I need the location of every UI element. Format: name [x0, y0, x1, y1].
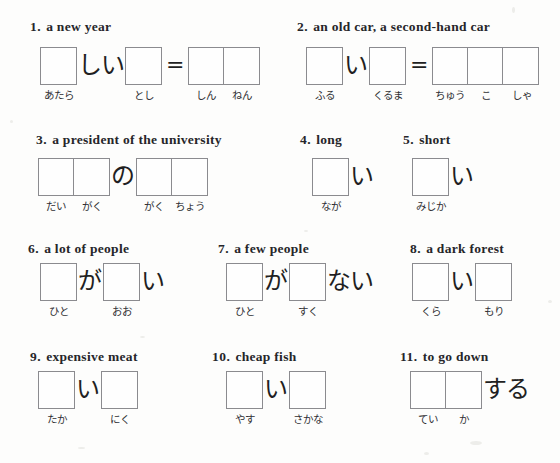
- kanji-answer-box[interactable]: [306, 47, 343, 85]
- kanji-box-group[interactable]: だいがく: [38, 158, 110, 212]
- kanji-cell[interactable]: [503, 48, 538, 84]
- kanji-answer-box[interactable]: [410, 371, 482, 409]
- kana-okurigana: する: [482, 371, 530, 407]
- kanji-answer-box[interactable]: [312, 158, 349, 196]
- kanji-box-group[interactable]: もり: [475, 263, 512, 317]
- kanji-cell[interactable]: [468, 48, 503, 84]
- kanji-cell[interactable]: [413, 264, 448, 300]
- kanji-cell[interactable]: [172, 159, 207, 195]
- item-heading-5: 5short: [403, 132, 451, 148]
- furigana-hint: がく: [136, 200, 172, 212]
- furigana-hint: なが: [312, 200, 349, 212]
- item-heading-8: 8a dark forest: [410, 241, 504, 257]
- kanji-cell[interactable]: [41, 48, 76, 84]
- kanji-box-group[interactable]: ふる: [306, 47, 343, 101]
- kanji-answer-box[interactable]: [136, 158, 208, 196]
- kanji-box-group[interactable]: ちゅうこしゃ: [432, 47, 539, 101]
- kanji-box-group[interactable]: しんねん: [188, 47, 260, 101]
- item-number: 4: [300, 132, 311, 147]
- kanji-answer-box[interactable]: [103, 263, 140, 301]
- kana-okurigana: い: [343, 47, 369, 83]
- kanji-answer-box[interactable]: [475, 263, 512, 301]
- item-heading-10: 10cheap fish: [212, 349, 297, 365]
- item-heading-11: 11to go down: [400, 349, 489, 365]
- kanji-answer-box[interactable]: [412, 158, 449, 196]
- kanji-box-group[interactable]: くら: [412, 263, 449, 317]
- answer-row-5: みじかい: [412, 158, 475, 212]
- kanji-box-group[interactable]: にく: [101, 371, 138, 425]
- kanji-cell[interactable]: [74, 159, 109, 195]
- kana-okurigana: の: [110, 158, 136, 194]
- kanji-answer-box[interactable]: [432, 47, 539, 85]
- kanji-cell[interactable]: [313, 159, 348, 195]
- kanji-box-group[interactable]: やす: [226, 371, 263, 425]
- kanji-answer-box[interactable]: [101, 371, 138, 409]
- item-prompt: long: [316, 132, 342, 147]
- kanji-answer-box[interactable]: [38, 158, 110, 196]
- item-heading-7: 7a few people: [218, 241, 309, 257]
- kanji-cell[interactable]: [104, 264, 139, 300]
- kanji-cell[interactable]: [446, 372, 481, 408]
- kanji-cell[interactable]: [224, 48, 259, 84]
- kanji-box-group[interactable]: くるま: [369, 47, 406, 101]
- kanji-box-group[interactable]: あたら: [40, 47, 77, 101]
- kanji-cell[interactable]: [433, 48, 468, 84]
- furigana-hint-row: ちゅうこしゃ: [432, 89, 539, 101]
- kanji-cell[interactable]: [39, 159, 74, 195]
- kanji-box-group[interactable]: がくちょう: [136, 158, 208, 212]
- kanji-answer-box[interactable]: [188, 47, 260, 85]
- furigana-hint: くるま: [369, 89, 406, 101]
- kanji-cell[interactable]: [307, 48, 342, 84]
- kanji-box-group[interactable]: ひと: [226, 263, 263, 317]
- kanji-answer-box[interactable]: [289, 263, 326, 301]
- furigana-hint: さかな: [289, 413, 326, 425]
- kanji-answer-box[interactable]: [38, 371, 75, 409]
- equals-sign: =: [162, 47, 188, 83]
- furigana-hint: もり: [475, 305, 512, 317]
- kanji-answer-box[interactable]: [412, 263, 449, 301]
- kanji-answer-box[interactable]: [125, 47, 162, 85]
- answer-row-3: だいがくのがくちょう: [38, 158, 208, 212]
- kanji-box-group[interactable]: みじか: [412, 158, 449, 212]
- item-number: 1: [30, 19, 41, 34]
- kanji-cell[interactable]: [126, 48, 161, 84]
- furigana-hint: がく: [74, 200, 110, 212]
- kanji-box-group[interactable]: たか: [38, 371, 75, 425]
- kanji-answer-box[interactable]: [226, 371, 263, 409]
- kanji-box-group[interactable]: ひと: [40, 263, 77, 317]
- kanji-cell[interactable]: [370, 48, 405, 84]
- kanji-box-group[interactable]: おお: [103, 263, 140, 317]
- kanji-cell[interactable]: [476, 264, 511, 300]
- kanji-cell[interactable]: [227, 372, 262, 408]
- kanji-box-group[interactable]: さかな: [289, 371, 326, 425]
- kanji-cell[interactable]: [227, 264, 262, 300]
- kanji-answer-box[interactable]: [226, 263, 263, 301]
- kanji-answer-box[interactable]: [40, 263, 77, 301]
- kanji-answer-box[interactable]: [289, 371, 326, 409]
- furigana-hint: ちゅう: [432, 89, 468, 101]
- furigana-hint-row: にく: [101, 413, 138, 425]
- kanji-cell[interactable]: [290, 372, 325, 408]
- kanji-cell[interactable]: [102, 372, 137, 408]
- item-heading-9: 9expensive meat: [30, 349, 138, 365]
- kanji-cell[interactable]: [137, 159, 172, 195]
- kanji-box-group[interactable]: とし: [125, 47, 162, 101]
- kanji-cell[interactable]: [41, 264, 76, 300]
- furigana-hint: おお: [103, 305, 140, 317]
- furigana-hint-row: さかな: [289, 413, 326, 425]
- kanji-answer-box[interactable]: [369, 47, 406, 85]
- kanji-cell[interactable]: [411, 372, 446, 408]
- kanji-box-group[interactable]: なが: [312, 158, 349, 212]
- furigana-hint-row: おお: [103, 305, 140, 317]
- kanji-cell[interactable]: [290, 264, 325, 300]
- furigana-hint-row: くるま: [369, 89, 406, 101]
- furigana-hint: ねん: [224, 89, 260, 101]
- kanji-box-group[interactable]: すく: [289, 263, 326, 317]
- furigana-hint: か: [446, 413, 482, 425]
- kanji-cell[interactable]: [189, 48, 224, 84]
- kanji-answer-box[interactable]: [40, 47, 77, 85]
- kanji-cell[interactable]: [413, 159, 448, 195]
- furigana-hint: ちょう: [172, 200, 208, 212]
- kanji-cell[interactable]: [39, 372, 74, 408]
- kanji-box-group[interactable]: ていか: [410, 371, 482, 425]
